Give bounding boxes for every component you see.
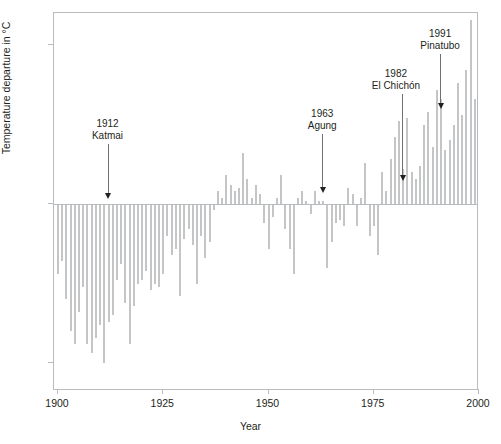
bar bbox=[301, 191, 303, 204]
bar bbox=[449, 140, 451, 204]
annotation-label-agung: 1963Agung bbox=[308, 108, 337, 131]
bar bbox=[356, 204, 358, 226]
bar bbox=[141, 204, 143, 280]
bar bbox=[154, 204, 156, 284]
bar bbox=[57, 204, 59, 274]
x-axis-tick-label: 1925 bbox=[151, 398, 174, 409]
bar bbox=[339, 204, 341, 220]
bar bbox=[331, 204, 333, 242]
bar bbox=[91, 204, 93, 353]
x-axis-tick bbox=[268, 389, 269, 394]
annotation-leader-pinatubo bbox=[440, 54, 441, 103]
bar bbox=[453, 125, 455, 205]
zero-baseline bbox=[54, 204, 477, 205]
annotation-name: Katmai bbox=[92, 130, 123, 142]
x-axis-tick bbox=[373, 389, 374, 394]
bar bbox=[171, 204, 173, 255]
bar bbox=[474, 99, 476, 204]
bar bbox=[284, 204, 286, 229]
bar bbox=[86, 204, 88, 344]
bar bbox=[381, 172, 383, 204]
bar bbox=[225, 175, 227, 204]
bar bbox=[112, 204, 114, 315]
bar bbox=[398, 121, 400, 204]
annotation-year: 1912 bbox=[92, 118, 123, 130]
bar bbox=[415, 179, 417, 204]
annotation-label-katmai: 1912Katmai bbox=[92, 118, 123, 141]
bar bbox=[465, 70, 467, 204]
y-axis-tick bbox=[48, 44, 53, 45]
bar bbox=[137, 204, 139, 284]
bar bbox=[385, 191, 387, 204]
bar bbox=[423, 125, 425, 205]
bar bbox=[200, 204, 202, 236]
bar bbox=[188, 204, 190, 229]
bar bbox=[364, 163, 366, 204]
annotation-leader-elchichon bbox=[402, 94, 403, 175]
bar bbox=[280, 175, 282, 204]
bar bbox=[377, 204, 379, 255]
bar bbox=[310, 204, 312, 214]
x-axis-tick-label: 2000 bbox=[466, 398, 489, 409]
bar bbox=[390, 159, 392, 204]
annotation-label-elchichon: 1982El Chichón bbox=[372, 68, 420, 91]
annotation-year: 1963 bbox=[308, 108, 337, 120]
bar bbox=[440, 99, 442, 204]
bar bbox=[238, 188, 240, 204]
x-axis-tick bbox=[57, 389, 58, 394]
bar bbox=[116, 204, 118, 280]
annotation-leader-agung bbox=[322, 134, 323, 187]
bar bbox=[246, 179, 248, 204]
x-axis-tick-label: 1950 bbox=[256, 398, 279, 409]
bar bbox=[61, 204, 63, 261]
bar bbox=[461, 115, 463, 204]
bar bbox=[444, 150, 446, 204]
bar bbox=[162, 204, 164, 274]
bar bbox=[95, 204, 97, 338]
x-axis-tick-label: 1900 bbox=[45, 398, 68, 409]
bar bbox=[289, 204, 291, 249]
annotation-label-pinatubo: 1991Pinatubo bbox=[420, 28, 459, 51]
bar bbox=[103, 204, 105, 363]
bar bbox=[99, 204, 101, 325]
bar bbox=[406, 118, 408, 204]
bar bbox=[183, 204, 185, 239]
bar bbox=[432, 147, 434, 204]
x-axis-tick bbox=[162, 389, 163, 394]
bar bbox=[120, 204, 122, 264]
bar bbox=[373, 204, 375, 226]
y-axis-tick bbox=[48, 362, 53, 363]
bar bbox=[192, 204, 194, 245]
bar bbox=[196, 204, 198, 284]
bar bbox=[411, 172, 413, 204]
x-axis-tick bbox=[478, 389, 479, 394]
bar bbox=[158, 204, 160, 287]
bar bbox=[272, 204, 274, 217]
bar bbox=[268, 204, 270, 249]
annotation-leader-katmai bbox=[108, 144, 109, 193]
bar bbox=[457, 83, 459, 204]
bar bbox=[82, 204, 84, 287]
y-axis-label: Temperature departure in °C bbox=[0, 18, 12, 158]
bar bbox=[78, 204, 80, 312]
bar bbox=[335, 204, 337, 223]
bar bbox=[234, 191, 236, 204]
bar bbox=[217, 191, 219, 204]
bar bbox=[347, 188, 349, 204]
bar bbox=[145, 204, 147, 271]
bar bbox=[175, 204, 177, 249]
annotation-name: Agung bbox=[308, 120, 337, 132]
bar bbox=[124, 204, 126, 303]
bar bbox=[65, 204, 67, 299]
bar bbox=[314, 191, 316, 204]
bar bbox=[419, 166, 421, 204]
bar bbox=[255, 185, 257, 204]
annotation-arrowhead-katmai bbox=[105, 193, 111, 199]
bar bbox=[369, 204, 371, 236]
bar bbox=[204, 204, 206, 258]
bar bbox=[343, 204, 345, 226]
bar bbox=[179, 204, 181, 296]
y-axis-tick bbox=[48, 203, 53, 204]
bar bbox=[394, 137, 396, 204]
bar bbox=[150, 204, 152, 290]
